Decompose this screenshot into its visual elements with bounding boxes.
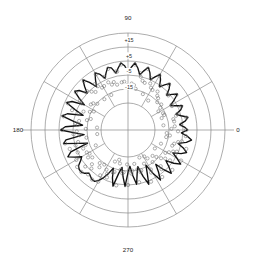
marker-point [165,135,168,138]
marker-point [173,125,176,128]
marker-point [78,119,81,122]
polar-chart-canvas: +15+5-5-15 90 270 180 0 [0,0,256,263]
marker-point [138,156,141,159]
marker-point [164,157,167,160]
polar-spokes [22,33,234,227]
marker-point [149,180,152,183]
marker-point [84,165,87,168]
marker-point [160,116,163,119]
marker-point [173,142,176,145]
marker-point [86,156,89,159]
marker-point [98,161,101,164]
marker-point [153,147,156,150]
marker-point [91,156,94,159]
marker-point [90,167,93,170]
radial-label-plus15: +15 [124,37,133,43]
marker-point [159,106,162,109]
marker-point [185,147,188,150]
marker-point [141,79,144,82]
marker-point [90,163,93,166]
marker-point [151,154,154,157]
angle-label-180: 180 [13,126,24,133]
marker-point [160,175,163,178]
marker-point [118,158,121,161]
marker-point [171,168,174,171]
marker-point [82,110,85,113]
radial-label-plus5: +5 [126,53,132,59]
marker-point [141,93,144,96]
marker-point [162,124,165,127]
marker-point [115,184,118,187]
marker-point [94,90,97,93]
marker-point [99,174,102,177]
marker-point [68,147,71,150]
marker-point [82,147,85,150]
marker-point [110,93,113,96]
marker-point [159,142,162,145]
radial-label-minus5: -5 [127,68,132,74]
marker-point [103,98,106,101]
angle-label-90: 90 [125,14,132,21]
marker-point [116,83,119,86]
marker-point [96,132,99,135]
marker-point [118,162,121,165]
marker-point [105,176,108,179]
marker-point [89,117,92,120]
angle-label-0: 0 [236,126,240,133]
marker-point [155,155,158,158]
marker-point [107,81,110,84]
marker-point [165,131,168,134]
marker-point [137,181,140,184]
angle-label-270: 270 [123,246,134,253]
marker-point [171,144,174,147]
marker-point [146,157,149,160]
marker-point [156,90,159,93]
marker-point [142,162,145,165]
marker-point [159,157,162,160]
marker-point [149,82,152,85]
radial-tick-labels: +15+5-5-15 [124,37,135,90]
marker-point [147,99,150,102]
radial-label-minus15: -15 [125,84,133,90]
polar-chart: +15+5-5-15 90 270 180 0 [0,0,256,263]
marker-point [90,90,93,93]
marker-point [110,83,113,86]
marker-point [95,126,98,129]
marker-point [113,160,116,163]
marker-point [94,144,97,147]
marker-point [70,109,73,112]
marker-point [133,162,136,165]
marker-point [98,166,101,169]
